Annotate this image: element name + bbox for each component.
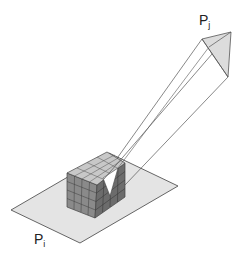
projection-ray-3 xyxy=(125,77,228,185)
projection-ray-1 xyxy=(103,39,202,178)
source-patch-label: Pi xyxy=(34,232,45,249)
target-patch xyxy=(202,32,231,77)
projection-ray-4 xyxy=(118,47,209,168)
diagram-canvas xyxy=(0,0,243,255)
target-patch-label: Pj xyxy=(199,13,210,30)
